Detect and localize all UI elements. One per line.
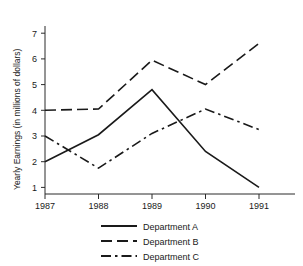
series-line-department-c — [45, 109, 259, 168]
chart-legend: Department A Department B Department C — [101, 222, 200, 262]
y-tick-label-5: 5 — [32, 80, 37, 90]
legend-label-department-a: Department A — [143, 222, 198, 232]
y-axis-label: Yearly Earnings (in millions of dollars) — [12, 48, 22, 190]
chart-canvas: 7 6 5 4 3 2 1 1987 1988 1989 1990 1991 Y… — [0, 0, 303, 266]
y-tick-label-3: 3 — [32, 131, 37, 141]
y-tick-label-7: 7 — [32, 29, 37, 39]
x-axis-ticks — [45, 194, 259, 199]
x-tick-label-1989: 1989 — [142, 201, 162, 211]
series-line-department-b — [45, 43, 259, 110]
x-tick-label-1987: 1987 — [35, 201, 55, 211]
legend-label-department-c: Department C — [143, 252, 200, 262]
y-axis-tick-labels: 7 6 5 4 3 2 1 — [32, 29, 37, 193]
x-tick-label-1990: 1990 — [195, 201, 215, 211]
x-axis-tick-labels: 1987 1988 1989 1990 1991 — [35, 201, 269, 211]
x-tick-label-1988: 1988 — [88, 201, 108, 211]
series-line-department-a — [45, 90, 259, 188]
y-tick-label-6: 6 — [32, 54, 37, 64]
x-tick-label-1991: 1991 — [249, 201, 269, 211]
legend-label-department-b: Department B — [143, 237, 199, 247]
y-axis-ticks — [41, 33, 45, 187]
y-tick-label-2: 2 — [32, 157, 37, 167]
y-tick-label-1: 1 — [32, 183, 37, 193]
y-tick-label-4: 4 — [32, 106, 37, 116]
line-chart: 7 6 5 4 3 2 1 1987 1988 1989 1990 1991 Y… — [0, 0, 303, 266]
